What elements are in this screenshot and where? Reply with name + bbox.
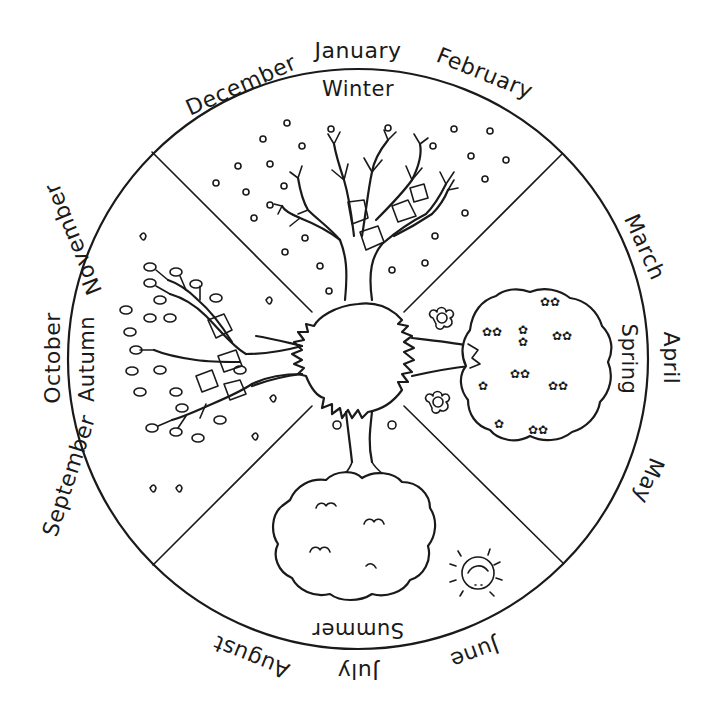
winter-tree-illustration	[213, 120, 509, 300]
season-spring: Spring	[617, 324, 641, 395]
summer-tree-illustration	[273, 462, 502, 600]
month-january: January	[313, 38, 402, 63]
month-june: June	[447, 632, 504, 673]
svg-text:✿✿: ✿✿	[548, 379, 568, 393]
autumn-leaves	[120, 233, 276, 492]
month-february: February	[433, 42, 536, 103]
season-summer: Summer	[312, 618, 404, 642]
month-november: November	[39, 179, 107, 299]
sun-icon	[450, 549, 502, 596]
svg-text:✿✿: ✿✿	[540, 295, 560, 309]
season-autumn: Autumn	[75, 316, 99, 402]
svg-text:✿: ✿	[518, 335, 528, 349]
svg-text:✿✿: ✿✿	[510, 367, 530, 381]
month-september: September	[37, 411, 100, 539]
month-december: December	[182, 50, 300, 121]
month-april: April	[659, 332, 684, 385]
svg-text:✿: ✿	[478, 379, 488, 393]
svg-text:✿✿: ✿✿	[528, 423, 548, 437]
month-march: March	[619, 210, 670, 284]
svg-text:✿✿: ✿✿	[552, 329, 572, 343]
season-winter: Winter	[322, 77, 394, 101]
svg-text:✿: ✿	[494, 417, 504, 431]
spring-tree-illustration: ✿✿ ✿✿ ✿ ✿ ✿✿ ✿✿ ✿✿ ✿ ✿ ✿✿	[461, 289, 611, 440]
snow-dots	[213, 120, 509, 294]
autumn-tree-illustration	[120, 233, 302, 492]
month-october: October	[40, 312, 65, 404]
seasons-wheel: December January February March April Ma…	[0, 0, 714, 716]
month-may: May	[629, 454, 670, 507]
month-july: July	[337, 659, 381, 684]
svg-text:✿✿: ✿✿	[482, 325, 502, 339]
